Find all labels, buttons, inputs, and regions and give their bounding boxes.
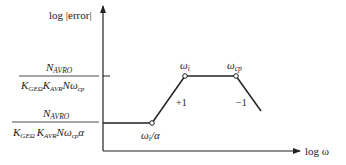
upper-level-numerator: NAVRO <box>45 61 73 75</box>
y-axis-label: log |error| <box>49 9 92 21</box>
lower-level-fraction: NAVRO KGEΩKAVRNωcpα <box>12 107 99 140</box>
breakpoint-wcp-marker <box>234 74 239 79</box>
lower-level-numerator: NAVRO <box>42 107 70 121</box>
lower-level-denominator: KGEΩKAVRNωcpα <box>12 126 84 140</box>
x-axis-label: log ω <box>305 145 329 157</box>
breakpoint-wi-label: ωi <box>180 59 190 73</box>
breakpoint-wi-marker <box>183 74 188 79</box>
bode-diagram: log |error| log ω ωi/α ωi ωcp +1 −1 NAVR… <box>0 0 346 165</box>
slope-plus-one-label: +1 <box>176 97 187 108</box>
breakpoint-wi-over-alpha-marker <box>150 121 155 126</box>
breakpoint-wcp-label: ωcp <box>227 59 242 73</box>
breakpoint-wi-over-alpha-label: ωi/α <box>141 129 160 143</box>
upper-level-denominator: KGEΩKAVRNωcp <box>20 79 85 93</box>
slope-minus-one-label: −1 <box>236 97 247 108</box>
upper-level-fraction: NAVRO KGEΩKAVRNωcp <box>19 61 99 93</box>
